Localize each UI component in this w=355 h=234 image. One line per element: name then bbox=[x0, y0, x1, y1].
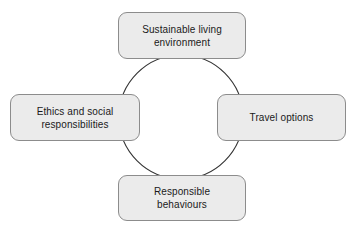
node-box-sustainable-living-environment[interactable]: Sustainable living environment bbox=[118, 12, 246, 59]
node-label-right: Travel options bbox=[244, 111, 320, 124]
node-label-top: Sustainable living environment bbox=[136, 23, 228, 49]
cycle-diagram: Sustainable living environment Travel op… bbox=[0, 0, 355, 234]
node-box-ethics-and-social-responsibilities[interactable]: Ethics and social responsibilities bbox=[10, 94, 140, 141]
node-box-responsible-behaviours[interactable]: Responsible behaviours bbox=[118, 175, 246, 221]
node-box-travel-options[interactable]: Travel options bbox=[217, 94, 346, 141]
node-label-left: Ethics and social responsibilities bbox=[31, 105, 120, 131]
node-label-bottom: Responsible behaviours bbox=[148, 185, 216, 211]
